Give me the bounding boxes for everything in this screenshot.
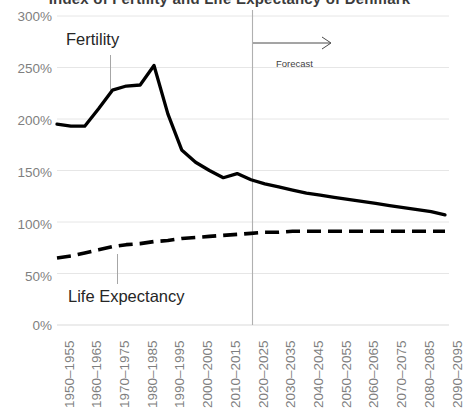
- x-tick-label: 2060–2065: [367, 340, 381, 408]
- x-tick-label: 2000–2005: [201, 340, 215, 408]
- x-tick-label: 2040–2045: [312, 340, 326, 408]
- x-tick-label: 2030–2035: [284, 340, 298, 408]
- x-tick-label: 2010–2015: [229, 340, 243, 408]
- x-tick-label: 2080–2085: [423, 340, 437, 408]
- x-tick-label: 1990–1995: [173, 340, 187, 408]
- x-tick-label: 2020–2025: [257, 340, 271, 408]
- x-tick-label: 2050–2055: [340, 340, 354, 408]
- x-tick-label: 1980–1985: [146, 340, 160, 408]
- x-tick-label: 2070–2075: [395, 340, 409, 408]
- x-tick-label: 1970–1975: [118, 340, 132, 408]
- x-tick-label: 1950–1955: [63, 340, 77, 408]
- x-tick-label: 2090–2095: [451, 340, 465, 408]
- x-tick-label: 1960–1965: [90, 340, 104, 408]
